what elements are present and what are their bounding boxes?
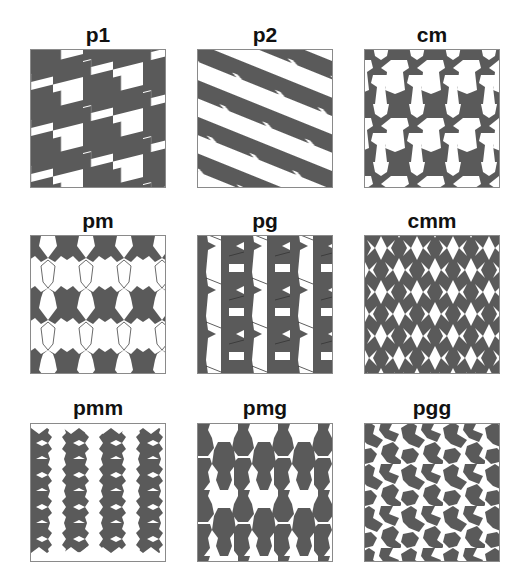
pmm-tiling-graphic — [31, 424, 165, 561]
panel-title: pg — [197, 210, 333, 232]
pattern-pgg — [364, 423, 500, 562]
pattern-p2 — [197, 49, 333, 188]
panel-title: p2 — [197, 24, 333, 46]
p2-tiling-graphic — [198, 50, 332, 187]
panel-title: pmg — [197, 397, 333, 419]
panel-title: p1 — [30, 24, 166, 46]
panel-title: pm — [30, 210, 166, 232]
pattern-pg — [197, 235, 333, 374]
cm-tiling-graphic — [365, 50, 499, 187]
pg-tiling-graphic — [198, 236, 332, 373]
p1-tiling-graphic — [31, 50, 165, 187]
pgg-tiling-graphic — [365, 424, 499, 561]
pmg-tiling-graphic — [198, 424, 332, 561]
pattern-cm — [364, 49, 500, 188]
panel-title: cmm — [364, 210, 500, 232]
pattern-pmg — [197, 423, 333, 562]
pm-tiling-graphic — [31, 236, 165, 373]
panel-title: cm — [364, 24, 500, 46]
pattern-pm — [30, 235, 166, 374]
cmm-tiling-graphic — [365, 236, 499, 373]
pattern-pmm — [30, 423, 166, 562]
pattern-cmm — [364, 235, 500, 374]
pattern-p1 — [30, 49, 166, 188]
panel-title: pmm — [30, 397, 166, 419]
panel-title: pgg — [364, 397, 500, 419]
